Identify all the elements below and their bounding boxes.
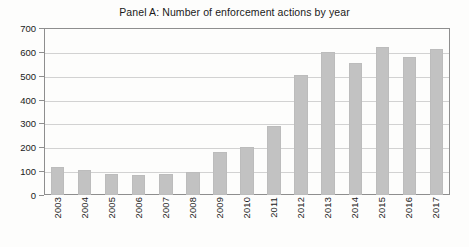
bar-2015 <box>376 47 390 195</box>
y-axis-tick-label: 0 <box>0 190 36 201</box>
bar-2005 <box>105 174 119 195</box>
x-axis: 2003200420052006200720082009201020112012… <box>44 197 450 245</box>
x-axis-tick-label: 2011 <box>269 197 279 218</box>
x-axis-tick-label: 2008 <box>188 197 198 218</box>
x-axis-tick-label: 2005 <box>107 197 117 218</box>
bar-2006 <box>132 175 146 195</box>
bar-2007 <box>159 174 173 195</box>
y-axis-tick-label: 400 <box>0 94 36 105</box>
y-axis-tick-label: 100 <box>0 166 36 177</box>
y-axis-tick-mark <box>39 195 44 196</box>
bar-2012 <box>294 75 308 195</box>
x-axis-tick-label: 2015 <box>377 197 387 218</box>
bar-2016 <box>403 57 417 195</box>
bar-2017 <box>430 49 444 195</box>
bar-2011 <box>267 126 281 195</box>
bar-2009 <box>213 152 227 195</box>
x-axis-tick-label: 2004 <box>80 197 90 218</box>
x-axis-tick-label: 2013 <box>323 197 333 218</box>
x-axis-tick-label: 2012 <box>296 197 306 218</box>
x-axis-tick-label: 2007 <box>161 197 171 218</box>
bar-2010 <box>240 147 254 195</box>
y-axis-tick-label: 700 <box>0 23 36 34</box>
y-axis-tick-label: 200 <box>0 142 36 153</box>
x-axis-tick-label: 2006 <box>134 197 144 218</box>
bar-series <box>44 28 450 195</box>
y-axis-tick-label: 300 <box>0 118 36 129</box>
x-axis-tick-label: 2017 <box>431 197 441 218</box>
x-axis-tick-label: 2003 <box>53 197 63 218</box>
x-axis-tick-label: 2009 <box>215 197 225 218</box>
bar-2013 <box>321 52 335 195</box>
y-axis-tick-label: 500 <box>0 70 36 81</box>
x-axis-tick-label: 2010 <box>242 197 252 218</box>
bar-2004 <box>78 170 92 195</box>
chart-figure: Panel A: Number of enforcement actions b… <box>0 0 469 247</box>
chart-title: Panel A: Number of enforcement actions b… <box>0 6 469 18</box>
bar-2008 <box>186 172 200 195</box>
y-axis-tick-label: 600 <box>0 46 36 57</box>
x-axis-tick-label: 2014 <box>350 197 360 218</box>
x-axis-tick-label: 2016 <box>404 197 414 218</box>
bar-2014 <box>349 63 363 195</box>
bar-2003 <box>51 167 65 195</box>
